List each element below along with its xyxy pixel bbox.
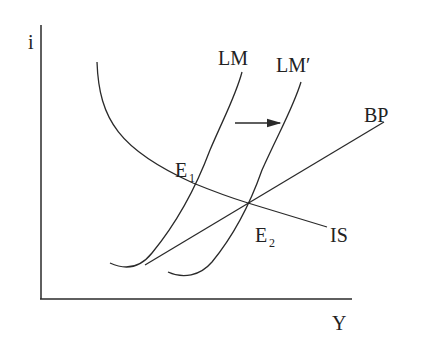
bp-label: BP bbox=[364, 104, 388, 126]
lm-prime-curve bbox=[168, 82, 301, 276]
lm-label: LM bbox=[218, 47, 248, 69]
is-lm-bp-diagram: i Y IS LM LM′ BP E 1 E 2 bbox=[0, 0, 423, 346]
y-axis-label: i bbox=[28, 31, 34, 53]
svg-text:E: E bbox=[175, 159, 187, 181]
equilibrium-e1-label: E 1 bbox=[175, 159, 195, 185]
lm-prime-label: LM′ bbox=[276, 54, 310, 76]
is-label: IS bbox=[330, 224, 348, 246]
x-axis-label: Y bbox=[332, 312, 346, 334]
svg-text:E: E bbox=[255, 224, 267, 246]
svg-text:1: 1 bbox=[189, 171, 195, 185]
equilibrium-e2-label: E 2 bbox=[255, 224, 275, 250]
svg-text:2: 2 bbox=[269, 236, 275, 250]
